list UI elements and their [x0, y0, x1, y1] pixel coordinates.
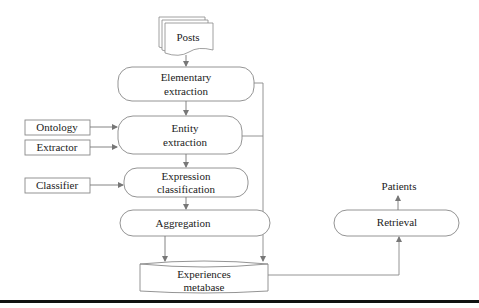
extractor-node: Extractor [25, 140, 90, 155]
posts-label: Posts [176, 31, 199, 43]
metabase-label-1: Experiences [177, 268, 231, 280]
experiences-metabase-node: Experiences metabase [140, 261, 268, 293]
elementary-extraction-node: Elementary extraction [118, 67, 254, 101]
aggregation-node: Aggregation [120, 210, 270, 236]
classifier-node: Classifier [25, 178, 90, 193]
elementary-label-2: extraction [164, 85, 208, 97]
posts-node: Posts [159, 17, 213, 55]
expression-label-2: classification [157, 183, 216, 195]
ontology-label: Ontology [36, 121, 78, 133]
ontology-node: Ontology [25, 120, 90, 135]
retrieval-node: Retrieval [334, 210, 459, 236]
entity-label-2: extraction [163, 136, 207, 148]
retrieval-label: Retrieval [377, 216, 417, 228]
entity-extraction-node: Entity extraction [118, 116, 242, 154]
elementary-label-1: Elementary [161, 71, 212, 83]
patients-label: Patients [382, 180, 417, 192]
aggregation-label: Aggregation [156, 217, 211, 229]
classifier-label: Classifier [36, 179, 78, 191]
flow-diagram: Posts Elementary extraction Entity extra… [0, 0, 479, 308]
entity-label-1: Entity [172, 122, 199, 134]
bottom-rule [0, 300, 479, 303]
extractor-label: Extractor [37, 141, 78, 153]
expression-label-1: Expression [162, 170, 211, 182]
metabase-label-2: metabase [184, 281, 225, 293]
expression-classification-node: Expression classification [124, 168, 248, 197]
